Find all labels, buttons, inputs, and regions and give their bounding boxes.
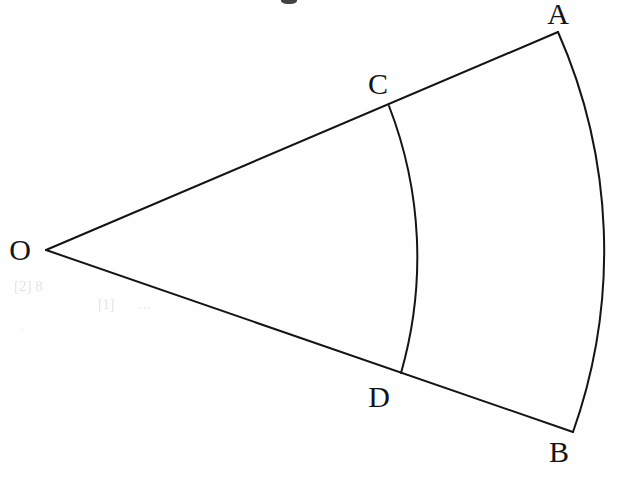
vertex-label-o: O bbox=[9, 235, 31, 265]
vertex-label-c: C bbox=[368, 69, 388, 99]
segment-ob bbox=[46, 250, 573, 432]
segment-oa bbox=[46, 32, 558, 250]
inner-arc-cd bbox=[389, 106, 417, 373]
outer-arc-ab bbox=[558, 32, 604, 432]
vertex-label-d: D bbox=[368, 382, 390, 412]
sector-figure bbox=[0, 0, 621, 489]
vertex-label-b: B bbox=[549, 437, 569, 467]
vertex-label-a: A bbox=[547, 0, 569, 29]
figure-page: O A B C D [2] 8 [1] ··· · bbox=[0, 0, 621, 489]
